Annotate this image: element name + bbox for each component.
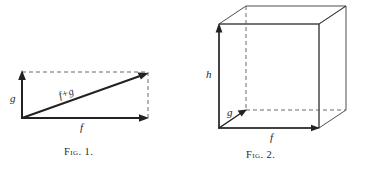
figure-2-caption: Fig. 2. (246, 149, 275, 160)
figure-1-label-f: f (80, 121, 85, 133)
figure-2-drawing: h g f Fig. 2. (184, 0, 367, 169)
cube-front-face (219, 24, 319, 128)
cube-top-face (219, 6, 346, 24)
figure-1-label-f-plus-g: f+g (57, 85, 75, 100)
vector-g-arrowhead (18, 70, 26, 80)
figure-2-label-h: h (206, 68, 212, 80)
figure-2: h g f Fig. 2. (184, 0, 367, 169)
figure-1-drawing: g f f+g Fig. 1. (0, 0, 184, 169)
vector-f-arrowhead (139, 114, 149, 121)
vector-g-arrowhead (238, 110, 247, 117)
figure-1-caption: Fig. 1. (64, 146, 93, 157)
figure-1: g f f+g Fig. 1. (0, 0, 184, 169)
figure-2-label-g: g (227, 106, 233, 118)
figure-pair-container: g f f+g Fig. 1. (0, 0, 367, 169)
vector-f-plus-g-shaft (22, 76, 140, 118)
figure-1-label-g: g (10, 92, 16, 104)
figure-2-label-f: f (270, 131, 275, 143)
